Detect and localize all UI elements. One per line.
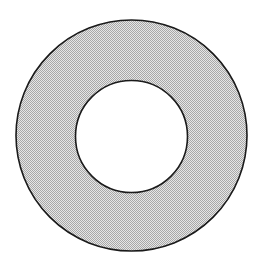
- inner-circle-hole: [76, 81, 188, 193]
- annulus-figure: [0, 0, 265, 271]
- annulus-diagram: [0, 0, 265, 271]
